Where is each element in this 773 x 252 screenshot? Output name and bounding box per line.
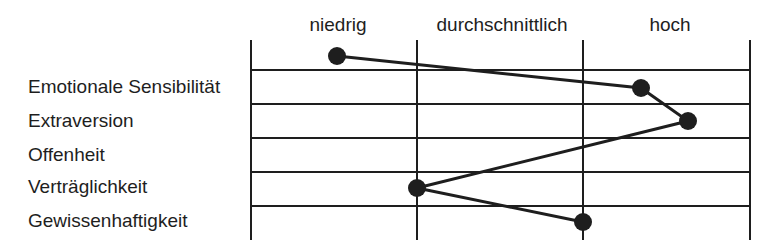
profile-point bbox=[679, 112, 697, 130]
grid-lines bbox=[251, 40, 750, 240]
profile-point bbox=[328, 47, 346, 65]
profile-point bbox=[574, 213, 592, 231]
profile-point bbox=[632, 79, 650, 97]
profile-grid bbox=[0, 0, 773, 252]
profile-point bbox=[408, 179, 426, 197]
